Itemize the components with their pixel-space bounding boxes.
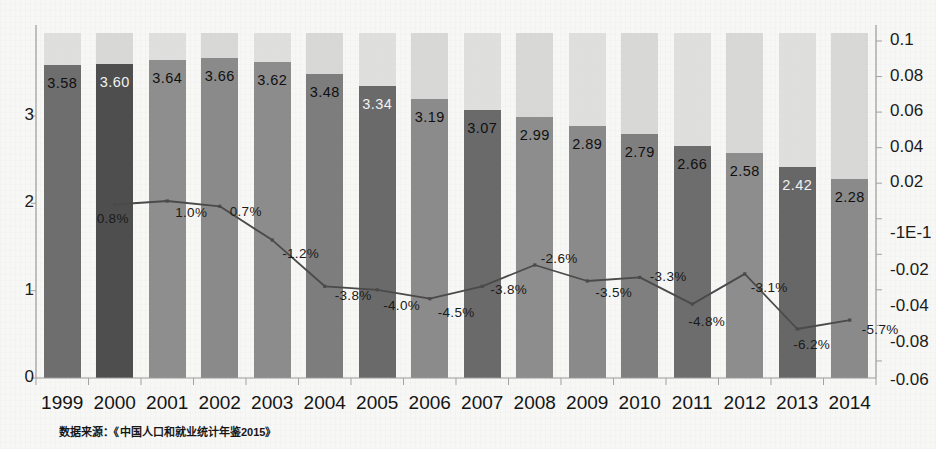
right-axis-tick: 0.04	[890, 137, 923, 157]
left-axis-tick: 2	[0, 192, 34, 212]
year-label: 2009	[561, 392, 613, 414]
chart-figure: 0123 0.10.080.060.040.02-1E-1-0.02-0.04-…	[0, 0, 936, 449]
year-label: 2010	[614, 392, 666, 414]
bar-value-label: 3.34	[351, 96, 403, 112]
left-axis-tick: 1	[0, 280, 34, 300]
right-axis-tick: -1E-1	[890, 223, 932, 243]
line-percent-label: -5.7%	[862, 322, 899, 337]
line-percent-label: -4.0%	[383, 298, 420, 313]
line-percent-label: -4.8%	[688, 314, 725, 329]
bar-value-label: 3.60	[89, 74, 141, 90]
year-label: 2003	[246, 392, 298, 414]
line-marker	[638, 276, 641, 279]
line-marker	[481, 285, 484, 288]
year-label: 2007	[456, 392, 508, 414]
right-axis-tick: -0.02	[890, 260, 929, 280]
right-axis-tick: 0.08	[890, 66, 923, 86]
line-marker	[376, 288, 379, 291]
growth-rate-line	[113, 199, 851, 330]
plot-svg	[0, 0, 936, 449]
bar-value-label: 2.58	[719, 163, 771, 179]
line-percent-label: -4.5%	[438, 305, 475, 320]
bar-value-label: 2.99	[509, 127, 561, 143]
source-note: 数据来源：《中国人口和就业统计年鉴2015》	[59, 423, 276, 439]
line-marker	[796, 327, 799, 330]
bar-value-label: 3.62	[246, 72, 298, 88]
right-axis-tick: 0.06	[890, 101, 923, 121]
line-marker	[218, 205, 221, 208]
year-label: 2005	[351, 392, 403, 414]
bar-value-label: 2.42	[771, 177, 823, 193]
bar-value-label: 3.66	[194, 68, 246, 84]
bar-value-label: 3.48	[299, 84, 351, 100]
year-label: 2006	[404, 392, 456, 414]
line-marker	[691, 302, 694, 305]
line-percent-label: -3.8%	[490, 282, 527, 297]
bar-value-label: 3.64	[141, 70, 193, 86]
year-label: 1999	[36, 392, 88, 414]
line-marker	[271, 238, 274, 241]
year-label: 2012	[719, 392, 771, 414]
year-label: 2001	[141, 392, 193, 414]
line-marker	[586, 279, 589, 282]
line-percent-label: 0.8%	[97, 211, 129, 226]
line-marker	[113, 203, 116, 206]
right-axis-tick: -0.06	[890, 370, 929, 390]
year-label: 2008	[509, 392, 561, 414]
right-axis-tick: 0.02	[890, 172, 923, 192]
line-percent-label: -3.3%	[650, 269, 687, 284]
bar-value-label: 3.19	[404, 109, 456, 125]
line-percent-label: -6.2%	[793, 337, 830, 352]
line-percent-label: -3.8%	[335, 288, 372, 303]
right-axis-tick: -0.04	[890, 296, 929, 316]
line-percent-label: -1.2%	[282, 246, 319, 261]
line-percent-label: -3.1%	[751, 280, 788, 295]
year-label: 2011	[666, 392, 718, 414]
bar-value-label: 2.89	[561, 136, 613, 152]
left-axis-tick: 0	[0, 367, 34, 387]
year-label: 2014	[824, 392, 876, 414]
year-label: 2002	[194, 392, 246, 414]
line-path	[115, 201, 850, 329]
right-axis-tick: 0.1	[890, 30, 914, 50]
bar-value-label: 3.07	[456, 120, 508, 136]
line-percent-label: -2.6%	[541, 251, 578, 266]
line-marker	[743, 272, 746, 275]
bar-value-label: 2.28	[824, 189, 876, 205]
line-percent-label: -3.5%	[595, 285, 632, 300]
line-marker	[533, 263, 536, 266]
line-marker	[166, 199, 169, 202]
line-marker	[848, 318, 851, 321]
year-label: 2000	[89, 392, 141, 414]
left-axis-tick: 3	[0, 105, 34, 125]
bar-value-label: 2.66	[666, 156, 718, 172]
year-label: 2004	[299, 392, 351, 414]
year-label: 2013	[771, 392, 823, 414]
line-marker	[323, 285, 326, 288]
bar-value-label: 2.79	[614, 144, 666, 160]
line-marker	[428, 297, 431, 300]
line-percent-label: 0.7%	[230, 204, 262, 219]
line-percent-label: 1.0%	[175, 205, 207, 220]
bar-value-label: 3.58	[36, 75, 88, 91]
